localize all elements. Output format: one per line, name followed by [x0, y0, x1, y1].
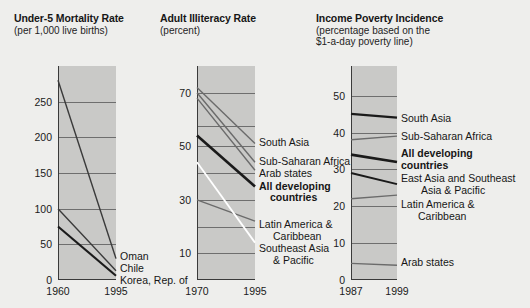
ytick-20: 20: [316, 200, 345, 212]
series-label-south-asia: South Asia: [259, 137, 309, 149]
series-line-latin-america: [351, 195, 397, 199]
plot-area: [351, 66, 397, 280]
ytick-150: 150: [14, 167, 52, 179]
panel-subtitle: (per 1,000 live births): [14, 25, 108, 37]
series-line-all-developing: [197, 136, 255, 187]
series-line-east-asia: [351, 173, 397, 184]
xtick-1999: 1999: [385, 285, 408, 297]
xtick-1995: 1995: [243, 285, 266, 297]
series-line-sub-saharan-africa: [197, 93, 255, 163]
ytick-200: 200: [14, 131, 52, 143]
series-lines: [58, 66, 116, 280]
ytick-50: 50: [316, 90, 345, 102]
plot-area: [197, 66, 255, 280]
series-label-east-asia-line2: Asia & Pacific: [421, 185, 485, 197]
ytick-40: 40: [316, 127, 345, 139]
ytick-10: 10: [160, 247, 191, 259]
series-label-all-developing-line2: countries: [270, 192, 317, 204]
xtick-1960: 1960: [46, 285, 69, 297]
ytick-50: 50: [14, 238, 52, 250]
panel-title: Income Poverty Incidence: [316, 12, 443, 24]
series-line-sub-saharan-africa: [351, 136, 397, 140]
series-label-south-asia: South Asia: [401, 113, 451, 125]
series-line-south-asia: [351, 114, 397, 118]
panel-title: Adult Illiteracy Rate: [160, 12, 256, 24]
ytick-100: 100: [14, 203, 52, 215]
series-lines: [351, 66, 397, 280]
ytick-30: 30: [316, 163, 345, 175]
series-label-arab-states: Arab states: [401, 257, 454, 269]
chart-figure: Under-5 Mortality Rate (per 1,000 live b…: [0, 0, 530, 308]
series-label-all-developing-line2: countries: [401, 160, 448, 172]
panel-subtitle-line2: $1-a-day poverty line): [316, 36, 413, 48]
series-label-southeast-asia-line2: & Pacific: [273, 255, 314, 267]
ytick-10: 10: [316, 237, 345, 249]
series-label-sub-saharan-africa: Sub-Saharan Africa: [401, 131, 492, 143]
series-line-oman: [58, 80, 116, 258]
series-label-latin-america-line2: Caribbean: [418, 211, 466, 223]
ytick-70: 70: [160, 87, 191, 99]
series-lines: [197, 66, 255, 280]
panel-income-poverty: Income Poverty Incidence (percentage bas…: [316, 0, 530, 308]
series-line-all-developing: [351, 155, 397, 162]
series-label-arab-states: Arab states: [259, 168, 312, 180]
panel-under5-mortality: Under-5 Mortality Rate (per 1,000 live b…: [14, 0, 162, 308]
ytick-50: 50: [160, 140, 191, 152]
xtick-1970: 1970: [185, 285, 208, 297]
xtick-1995: 1995: [104, 285, 127, 297]
ytick-30: 30: [160, 194, 191, 206]
series-line-arab-states: [351, 263, 397, 265]
plot-area: [58, 66, 116, 280]
ytick-250: 250: [14, 96, 52, 108]
panel-subtitle-line1: (percentage based on the: [316, 25, 430, 37]
panel-subtitle: (percent): [160, 25, 200, 37]
panel-title: Under-5 Mortality Rate: [14, 12, 124, 24]
panel-adult-illiteracy: Adult Illiteracy Rate (percent): [160, 0, 312, 308]
series-line-chile: [58, 209, 116, 271]
xtick-1987: 1987: [339, 285, 362, 297]
